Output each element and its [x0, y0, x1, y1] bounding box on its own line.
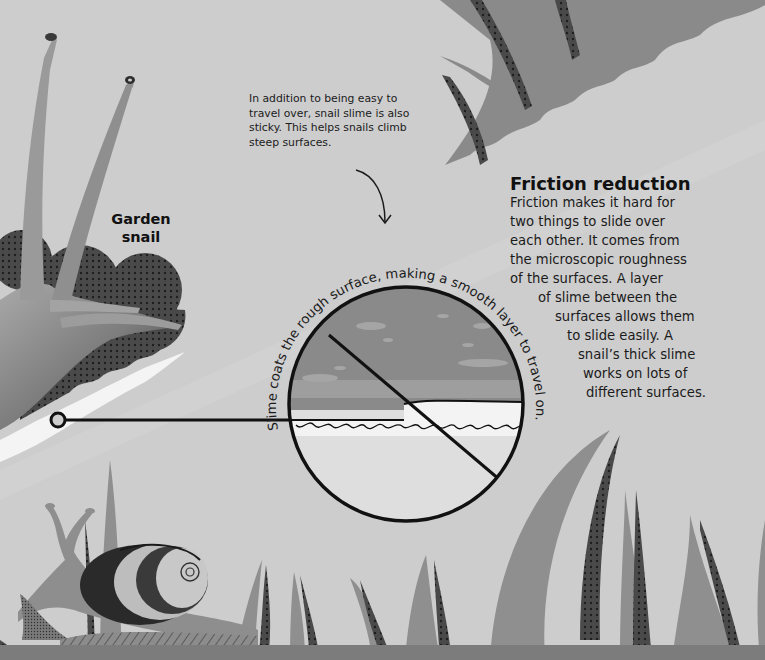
specimen-label: Garden snail [86, 210, 196, 246]
annotation-arrow-icon [356, 170, 385, 222]
section-heading: Friction reduction [510, 173, 691, 194]
grass-cluster-top-icon [440, 0, 765, 165]
illustration-page: Slime coats the rough surface, making a … [0, 0, 765, 660]
specimen-label-line2: snail [86, 228, 196, 246]
specimen-label-line1: Garden [86, 210, 196, 228]
ground-strip [0, 645, 765, 660]
annotation-text: In addition to being easy to travel over… [249, 92, 424, 150]
callout-marker-icon [51, 413, 65, 427]
cartoon-snail-icon [18, 503, 258, 645]
